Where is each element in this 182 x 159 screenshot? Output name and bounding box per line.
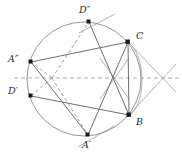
tangent-lines-group	[78, 14, 176, 147]
chord-A2-A1	[31, 62, 88, 135]
point-label-D1: D′	[8, 86, 18, 96]
figure-root: A″ D″ C B A′ D′	[0, 0, 182, 159]
point-marker-B	[127, 113, 131, 117]
chord-C-B	[128, 42, 129, 115]
geometry-canvas	[0, 0, 182, 159]
ray-focus-D1	[31, 78, 52, 96]
ray-focus-D2	[52, 22, 89, 78]
point-label-C: C	[136, 31, 143, 41]
point-label-A1: A′	[82, 140, 91, 150]
point-label-A2: A″	[8, 54, 19, 64]
point-marker-A1	[86, 133, 90, 137]
point-label-D2: D″	[79, 5, 90, 15]
point-marker-C	[126, 40, 130, 44]
chord-D1-B	[31, 96, 129, 115]
point-marker-A2	[29, 60, 33, 64]
point-marker-D1	[29, 94, 33, 98]
point-label-B: B	[136, 117, 143, 127]
chord-D2-B	[89, 22, 129, 115]
dashed-rays-group	[31, 22, 89, 135]
chord-A2-C	[31, 42, 128, 62]
tangent-from-C	[128, 42, 176, 92]
point-marker-D2	[87, 20, 91, 24]
